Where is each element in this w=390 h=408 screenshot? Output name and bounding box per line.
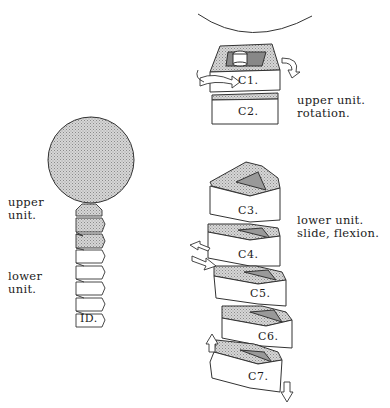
label-lower-unit: lower unit. [8, 270, 42, 296]
skull-arc [198, 14, 312, 33]
label-upper-unit: upper unit. [8, 196, 44, 222]
diagram-canvas: ID. [0, 0, 390, 408]
label-c7: C7. [248, 370, 268, 383]
vertebra-c5 [214, 266, 286, 306]
caption-upper-unit-rotation: upper unit. rotation. [297, 94, 365, 120]
label-c2: C2. [238, 105, 258, 118]
caption-lower-unit-slide-flexion: lower unit. slide, flexion. [297, 214, 379, 240]
signature: ID. [80, 312, 98, 325]
left-spine-column [76, 204, 105, 327]
label-c5: C5. [250, 287, 270, 300]
label-c3: C3. [238, 204, 258, 217]
vertebra-c7 [210, 340, 282, 392]
label-c6: C6. [258, 330, 278, 343]
label-c1: C1. [238, 74, 258, 87]
label-c4: C4. [238, 248, 258, 261]
left-head-circle [48, 117, 134, 203]
